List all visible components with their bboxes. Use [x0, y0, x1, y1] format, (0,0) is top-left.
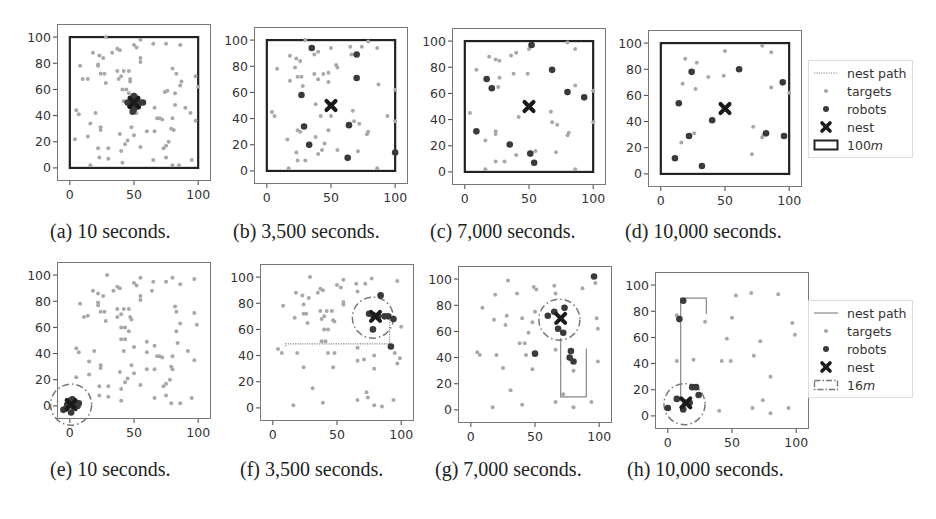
- target-point: [174, 329, 178, 333]
- target-point: [372, 367, 376, 371]
- target-point: [515, 291, 519, 295]
- target-point: [363, 282, 367, 286]
- target-point: [312, 52, 316, 56]
- robot-point: [709, 117, 716, 124]
- target-point: [77, 112, 81, 116]
- target-point: [123, 325, 127, 329]
- robot-point: [301, 123, 308, 130]
- subplot-f: 020406080100050100: [260, 264, 414, 421]
- target-point: [332, 351, 336, 355]
- target-point: [151, 280, 155, 284]
- legend-label: nest path: [847, 66, 906, 81]
- target-point: [555, 123, 559, 127]
- y-tick-label: 60: [238, 322, 254, 337]
- target-point: [341, 303, 345, 307]
- target-point: [138, 60, 142, 64]
- target-point: [520, 403, 524, 407]
- target-point: [591, 120, 595, 124]
- target-point: [339, 286, 343, 290]
- target-point: [122, 69, 126, 73]
- robot-point: [581, 94, 588, 101]
- target-point: [127, 69, 131, 73]
- robot-point: [306, 141, 313, 148]
- target-point: [320, 339, 324, 343]
- robot-point: [568, 348, 575, 355]
- robot-icon: [813, 342, 839, 356]
- axes-frame: [58, 263, 211, 419]
- robot-point: [370, 326, 377, 333]
- target-point: [102, 310, 106, 314]
- x-tick-label: 0: [66, 187, 74, 202]
- robot-point: [545, 312, 552, 319]
- target-point: [97, 53, 101, 57]
- target-point: [178, 401, 182, 405]
- target-point: [734, 294, 738, 298]
- target-point: [74, 346, 78, 350]
- target-point: [195, 323, 199, 327]
- target-point: [501, 366, 505, 370]
- caption-e: (e) 10 seconds.: [50, 458, 171, 481]
- y-tick-label: 100: [428, 272, 452, 287]
- target-point: [302, 365, 306, 369]
- target-point: [129, 125, 133, 129]
- target-point: [123, 337, 127, 341]
- y-tick-label: 60: [626, 88, 642, 103]
- robot-point: [298, 92, 305, 99]
- target-point: [372, 403, 376, 407]
- y-tick-label: 0: [43, 398, 51, 413]
- target-point: [399, 325, 403, 329]
- target-point: [321, 288, 325, 292]
- target-point: [769, 86, 773, 90]
- target-point: [331, 365, 335, 369]
- target-point: [549, 110, 553, 114]
- target-point: [322, 314, 326, 318]
- legend-label: nest: [847, 360, 874, 375]
- target-point: [758, 339, 762, 343]
- target-point: [171, 66, 175, 70]
- target-point: [787, 91, 791, 95]
- target-point: [132, 371, 136, 375]
- target-point: [320, 148, 324, 152]
- target-point: [138, 38, 142, 42]
- target-point: [123, 142, 127, 146]
- target-point: [307, 296, 311, 300]
- target-point: [681, 82, 685, 86]
- target-point: [395, 279, 399, 283]
- target-point: [524, 353, 528, 357]
- legend-item: nest path: [813, 304, 906, 322]
- target-point: [123, 380, 127, 384]
- target-point: [293, 316, 297, 320]
- target-point: [530, 320, 534, 324]
- target-point: [97, 384, 101, 388]
- target-point: [348, 45, 352, 49]
- target-point: [104, 81, 108, 85]
- y-tick-label: 60: [430, 86, 446, 101]
- target-point: [527, 331, 531, 335]
- target-point: [171, 163, 175, 167]
- target-point: [316, 77, 320, 81]
- target-point: [316, 152, 320, 156]
- robot-point: [676, 100, 683, 107]
- target-point: [793, 333, 797, 337]
- target-point: [86, 135, 90, 139]
- target-point: [270, 110, 274, 114]
- target-point: [129, 363, 133, 367]
- target-point: [314, 135, 318, 139]
- target-point: [190, 396, 194, 400]
- target-point: [119, 149, 123, 153]
- target-point: [138, 294, 142, 298]
- target-point: [356, 289, 360, 293]
- legend-item: robots: [813, 340, 906, 358]
- target-point: [118, 370, 122, 374]
- target-point: [350, 52, 354, 56]
- target-point: [276, 347, 280, 351]
- target-point: [127, 91, 131, 95]
- target-icon: [813, 84, 839, 98]
- target-point: [326, 351, 330, 355]
- y-tick-label: 0: [438, 164, 446, 179]
- target-point: [101, 56, 105, 60]
- target-point: [168, 378, 172, 382]
- target-point: [178, 83, 182, 87]
- target-point: [329, 114, 333, 118]
- target-point: [91, 289, 95, 293]
